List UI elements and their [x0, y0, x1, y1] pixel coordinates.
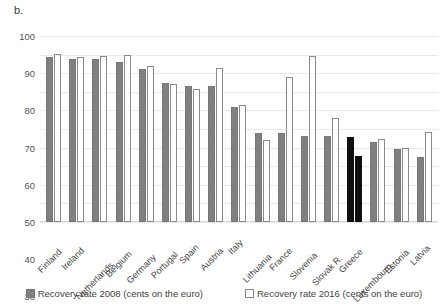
- bar-group: [112, 36, 135, 222]
- x-label-cell: Lithuania: [251, 224, 274, 280]
- bar: [278, 133, 285, 222]
- bar: [417, 157, 424, 222]
- bar: [263, 140, 270, 222]
- bar: [100, 56, 107, 222]
- bar-group: [274, 36, 297, 222]
- bar: [394, 149, 401, 222]
- bar: [77, 57, 84, 222]
- bar-group: [204, 36, 227, 222]
- bar: [347, 137, 354, 222]
- legend-label: Recovery rate 2016 (cents on the euro): [257, 288, 422, 299]
- y-axis-tick-label: 80: [24, 105, 35, 116]
- panel-letter: b.: [14, 4, 23, 16]
- bar-group: [366, 36, 389, 222]
- bar: [139, 69, 146, 222]
- bar: [370, 142, 377, 222]
- bar: [162, 83, 169, 222]
- legend-label: Recovery rate 2008 (cents on the euro): [38, 288, 203, 299]
- x-label-cell: Greece: [343, 224, 366, 280]
- bar: [170, 84, 177, 222]
- bar: [355, 156, 362, 222]
- bar: [116, 62, 123, 222]
- gridline: 0: [40, 222, 438, 223]
- bar: [208, 86, 215, 222]
- x-label-cell: Spain: [181, 224, 204, 280]
- bar: [402, 148, 409, 222]
- bar: [54, 54, 61, 222]
- y-axis-tick-label: 90: [24, 68, 35, 79]
- x-axis-tick-label-text: Latvia: [408, 243, 432, 267]
- x-label-cell: Finland: [42, 224, 65, 280]
- y-axis-tick-label: 50: [24, 217, 35, 228]
- bar: [332, 118, 339, 222]
- bar-groups: [40, 36, 438, 222]
- bar-group: [413, 36, 436, 222]
- x-label-cell: Ireland: [65, 224, 88, 280]
- x-label-cell: Portugal: [158, 224, 181, 280]
- y-axis-tick-label: 40: [24, 254, 35, 265]
- bar: [378, 139, 385, 222]
- bar: [255, 133, 262, 222]
- plot-area: 1009080706050403020100: [40, 36, 438, 222]
- bar-group: [343, 36, 366, 222]
- bar: [309, 56, 316, 222]
- x-label-cell: Estonia: [390, 224, 413, 280]
- x-label-cell: Slovenia: [297, 224, 320, 280]
- bar: [69, 59, 76, 222]
- bar-group: [65, 36, 88, 222]
- x-axis-labels: FinlandIrelandNetherlandsBelgiumGermanyP…: [40, 224, 438, 280]
- bar-group: [390, 36, 413, 222]
- bar-group: [251, 36, 274, 222]
- bar: [239, 105, 246, 222]
- x-axis-tick-label: Latvia: [425, 226, 448, 250]
- bar: [185, 86, 192, 222]
- bar-group: [227, 36, 250, 222]
- bar: [216, 68, 223, 222]
- legend-item: Recovery rate 2016 (cents on the euro): [245, 288, 422, 299]
- y-axis-tick-label: 100: [19, 31, 35, 42]
- bar-group: [135, 36, 158, 222]
- bar: [124, 55, 131, 222]
- bar-group: [297, 36, 320, 222]
- bar-chart-figure: b. 1009080706050403020100 FinlandIreland…: [0, 0, 448, 307]
- bar-group: [158, 36, 181, 222]
- bar-group: [88, 36, 111, 222]
- x-axis-tick-label-text: Finland: [35, 247, 63, 275]
- legend-swatch-icon: [26, 289, 35, 298]
- bar: [46, 57, 53, 222]
- bar: [425, 132, 432, 222]
- bar: [147, 66, 154, 222]
- bar: [231, 107, 238, 222]
- bar: [324, 136, 331, 222]
- bar: [193, 89, 200, 222]
- x-label-cell: Austria: [204, 224, 227, 280]
- y-axis-tick-label: 60: [24, 179, 35, 190]
- bar-group: [320, 36, 343, 222]
- x-axis-tick-label-text: Italy: [226, 238, 245, 257]
- legend-item: Recovery rate 2008 (cents on the euro): [26, 288, 203, 299]
- bar: [92, 59, 99, 222]
- bar-group: [42, 36, 65, 222]
- bar: [301, 136, 308, 222]
- x-label-cell: Latvia: [413, 224, 436, 280]
- legend-swatch-icon: [245, 289, 254, 298]
- y-axis-tick-label: 70: [24, 142, 35, 153]
- chart-legend: Recovery rate 2008 (cents on the euro)Re…: [0, 288, 448, 299]
- x-axis-tick-label-text: Spain: [177, 242, 200, 265]
- bar-group: [181, 36, 204, 222]
- bar: [286, 77, 293, 222]
